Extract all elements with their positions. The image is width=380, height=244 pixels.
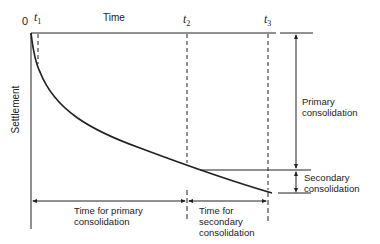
y-axis-label: Settlement — [10, 86, 21, 134]
origin-label: 0 — [22, 16, 28, 27]
primary-consolidation-label: Primary consolidation — [302, 96, 357, 118]
t1-label: t1 — [34, 12, 41, 27]
t3-label: t3 — [264, 14, 271, 29]
t2-label: t2 — [183, 14, 190, 29]
secondary-consolidation-label: Secondary consolidation — [304, 172, 359, 194]
primary-time-label: Time for primary consolidation — [74, 205, 143, 227]
secondary-time-label: Time for secondary consolidation — [199, 205, 254, 238]
x-axis-label: Time — [103, 12, 125, 23]
settlement-diagram — [0, 0, 380, 244]
settlement-curve — [31, 33, 272, 193]
